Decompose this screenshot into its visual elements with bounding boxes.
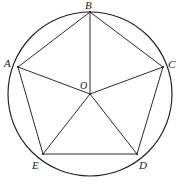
- pentagon-radii: [18, 12, 163, 154]
- label-point-O: O: [80, 80, 87, 91]
- geometry-figure: ABCDEO: [0, 0, 180, 186]
- vertex-marker-D: [136, 153, 138, 155]
- radius-OE: [43, 94, 90, 154]
- label-point-D: D: [139, 160, 147, 171]
- side-EA: [18, 67, 43, 154]
- label-point-A: A: [4, 58, 11, 69]
- figure-canvas: [0, 0, 180, 186]
- vertex-marker-E: [42, 153, 44, 155]
- vertex-marker-B: [89, 11, 91, 13]
- radius-OC: [90, 67, 163, 94]
- vertex-marker-C: [162, 66, 164, 68]
- vertex-marker-O: [89, 93, 91, 95]
- vertex-marker-A: [17, 66, 19, 68]
- radius-OD: [90, 94, 137, 154]
- side-CD: [137, 67, 163, 154]
- label-point-E: E: [32, 160, 39, 171]
- label-point-B: B: [85, 0, 92, 11]
- label-point-C: C: [168, 59, 175, 70]
